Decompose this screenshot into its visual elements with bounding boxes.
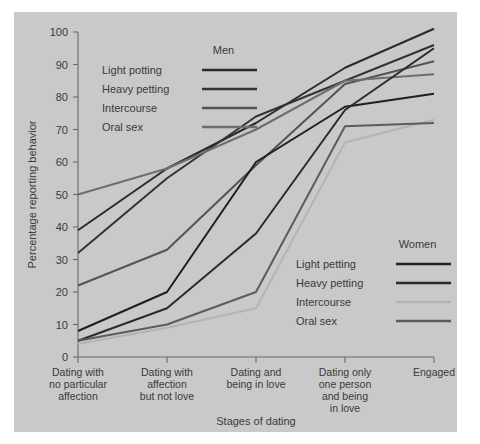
legend-label-women-1: Heavy petting bbox=[296, 277, 363, 289]
legend-label-women-2: Intercourse bbox=[296, 296, 351, 308]
legend-label-women-3: Oral sex bbox=[296, 315, 337, 327]
x-tick-label: Dating withaffectionbut not love bbox=[140, 366, 194, 402]
y-tick-label: 30 bbox=[56, 254, 68, 266]
line-chart: 0102030405060708090100Percentage reporti… bbox=[14, 12, 457, 432]
y-axis-title: Percentage reporting behavior bbox=[26, 120, 38, 268]
legend-title-women: Women bbox=[399, 238, 437, 250]
x-tick-label: Dating withno particularaffection bbox=[49, 366, 107, 402]
plot-area: 0102030405060708090100Percentage reporti… bbox=[14, 12, 457, 432]
chart-figure: 0102030405060708090100Percentage reporti… bbox=[14, 12, 457, 432]
y-tick-label: 0 bbox=[62, 351, 68, 363]
x-axis-title: Stages of dating bbox=[216, 415, 296, 427]
x-tick-label: Engaged bbox=[413, 366, 455, 378]
y-tick-label: 80 bbox=[56, 91, 68, 103]
y-tick-label: 60 bbox=[56, 156, 68, 168]
legend-label-men-3: Oral sex bbox=[102, 121, 143, 133]
y-tick-label: 40 bbox=[56, 221, 68, 233]
legend-label-women-0: Light petting bbox=[296, 258, 356, 270]
y-tick-label: 90 bbox=[56, 59, 68, 71]
legend-label-men-2: Intercourse bbox=[102, 102, 157, 114]
legend-label-men-1: Heavy petting bbox=[102, 83, 169, 95]
y-tick-label: 10 bbox=[56, 319, 68, 331]
y-tick-label: 20 bbox=[56, 286, 68, 298]
legend-label-men-0: Light potting bbox=[102, 64, 162, 76]
x-tick-label: Dating onlyone personand beingin love bbox=[319, 366, 372, 414]
legend-title-men: Men bbox=[213, 44, 234, 56]
y-tick-label: 70 bbox=[56, 124, 68, 136]
x-tick-label: Dating andbeing in love bbox=[227, 366, 286, 390]
series-line-men-heavy-petting bbox=[78, 45, 434, 253]
y-tick-label: 100 bbox=[50, 26, 68, 38]
y-tick-label: 50 bbox=[56, 189, 68, 201]
